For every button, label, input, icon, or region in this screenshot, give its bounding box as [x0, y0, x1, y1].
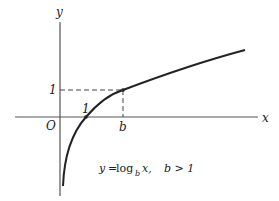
point-b-1 [121, 88, 125, 92]
log-graph: y x O 1 1 b y = log b x, b > 1 [0, 0, 279, 201]
x-axis-label: x [262, 111, 269, 125]
caption-arg: x, [142, 162, 152, 175]
y-axis-label: y [55, 5, 63, 19]
origin-label: O [46, 119, 56, 133]
caption: y = log b x, b > 1 [98, 162, 194, 178]
x-tick-b: b [119, 120, 127, 134]
y-tick-one: 1 [49, 83, 57, 97]
caption-lhs: y [98, 162, 106, 175]
log-curve [63, 50, 245, 186]
caption-base: b [135, 169, 140, 178]
caption-func: log [116, 162, 133, 175]
caption-condition: b > 1 [164, 162, 194, 175]
x-tick-one: 1 [82, 102, 90, 116]
